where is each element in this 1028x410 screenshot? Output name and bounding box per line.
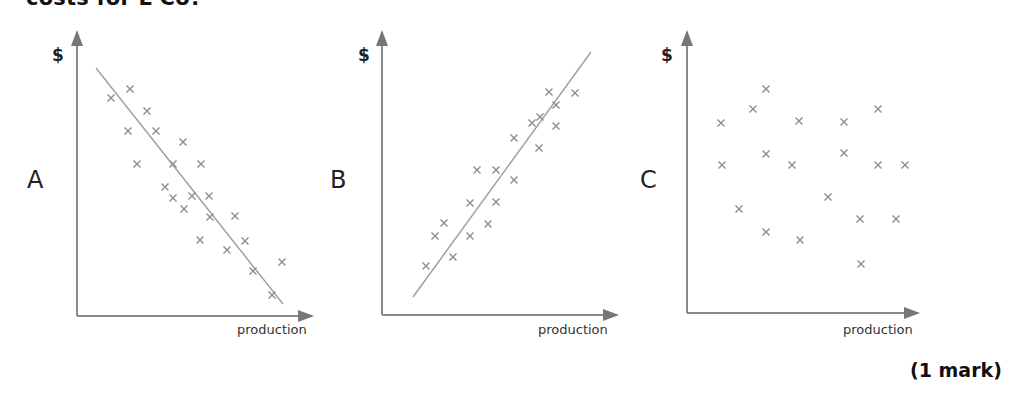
data-point-x-marker	[546, 89, 553, 96]
data-point-x-marker	[432, 233, 439, 240]
data-point-x-marker	[537, 114, 544, 121]
data-point-x-marker	[718, 120, 725, 127]
data-point-x-marker	[450, 254, 457, 261]
data-point-x-marker	[242, 238, 249, 245]
data-point-x-marker	[180, 139, 187, 146]
y-axis-label-b: $	[358, 45, 370, 65]
x-axis-label-a: production	[237, 322, 307, 337]
data-point-x-marker	[553, 123, 560, 130]
x-axis-label-b: production	[538, 322, 608, 337]
data-point-x-marker	[511, 135, 518, 142]
data-point-x-marker	[493, 167, 500, 174]
mark-label: (1 mark)	[910, 359, 1002, 381]
data-point-x-marker	[170, 161, 177, 168]
data-point-x-marker	[841, 119, 848, 126]
data-point-x-marker	[162, 184, 169, 191]
data-point-x-marker	[893, 216, 900, 223]
data-point-x-marker	[736, 206, 743, 213]
chart-b	[382, 32, 617, 315]
data-point-x-marker	[825, 194, 832, 201]
data-point-x-marker	[763, 86, 770, 93]
data-point-x-marker	[170, 195, 177, 202]
data-point-x-marker	[181, 206, 188, 213]
data-point-x-marker	[127, 86, 134, 93]
data-point-x-marker	[841, 150, 848, 157]
chart-c	[687, 32, 918, 313]
data-point-x-marker	[125, 128, 132, 135]
y-axis-label-c: $	[661, 45, 673, 65]
data-point-x-marker	[858, 261, 865, 268]
data-point-x-marker	[572, 90, 579, 97]
data-point-x-marker	[189, 193, 196, 200]
data-point-x-marker	[269, 292, 276, 299]
data-point-x-marker	[279, 259, 286, 266]
data-point-x-marker	[719, 162, 726, 169]
data-point-x-marker	[250, 268, 257, 275]
data-point-x-marker	[198, 161, 205, 168]
data-point-x-marker	[485, 221, 492, 228]
panel-label-a: A	[27, 166, 43, 194]
data-point-x-marker	[511, 177, 518, 184]
data-point-x-marker	[763, 229, 770, 236]
data-point-x-marker	[796, 118, 803, 125]
data-point-x-marker	[224, 247, 231, 254]
data-point-x-marker	[493, 199, 500, 206]
data-point-x-marker	[207, 214, 214, 221]
scatter-plots	[0, 0, 1028, 410]
data-point-x-marker	[902, 162, 909, 169]
x-axis-label-c: production	[843, 322, 913, 337]
data-point-x-marker	[423, 263, 430, 270]
data-point-x-marker	[441, 220, 448, 227]
data-point-x-marker	[134, 161, 141, 168]
data-point-x-marker	[789, 162, 796, 169]
panel-label-b: B	[330, 166, 346, 194]
data-point-x-marker	[797, 237, 804, 244]
data-point-x-marker	[529, 120, 536, 127]
data-point-x-marker	[153, 128, 160, 135]
data-point-x-marker	[857, 216, 864, 223]
data-point-x-marker	[750, 106, 757, 113]
data-point-x-marker	[144, 108, 151, 115]
data-point-x-marker	[536, 145, 543, 152]
trend-line	[413, 52, 591, 297]
panel-label-c: C	[640, 166, 657, 194]
chart-a	[77, 32, 312, 316]
data-point-x-marker	[467, 200, 474, 207]
data-point-x-marker	[232, 213, 239, 220]
data-point-x-marker	[108, 95, 115, 102]
data-point-x-marker	[206, 193, 213, 200]
data-point-x-marker	[467, 233, 474, 240]
y-axis-label-a: $	[52, 45, 64, 65]
data-point-x-marker	[474, 167, 481, 174]
data-point-x-marker	[875, 162, 882, 169]
data-point-x-marker	[553, 102, 560, 109]
data-point-x-marker	[763, 151, 770, 158]
data-point-x-marker	[197, 237, 204, 244]
data-point-x-marker	[875, 106, 882, 113]
